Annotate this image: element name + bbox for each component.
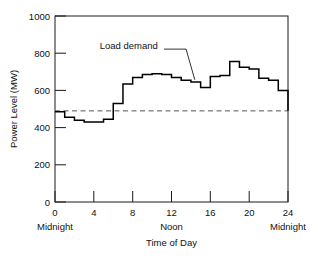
y-tick-label: 0: [45, 197, 50, 208]
x-tick-label: 0: [52, 207, 57, 218]
x-label-midnight-end: Midnight: [270, 221, 306, 232]
x-tick-label: 24: [283, 207, 294, 218]
y-tick-label: 400: [34, 122, 50, 133]
y-axis-title: Power Level (MW): [8, 70, 19, 148]
x-axis-tick-labels: 0 4 8 12 16 20 24: [52, 207, 293, 218]
y-axis-tick-labels: 1000 800 600 400 200 0: [29, 11, 50, 208]
y-tick-label: 600: [34, 85, 50, 96]
x-tick-label: 4: [91, 207, 96, 218]
y-tick-label: 800: [34, 48, 50, 59]
x-tick-label: 20: [244, 207, 255, 218]
chart-figure: 1000 800 600 400 200 0 Power Level (MW) …: [0, 0, 320, 260]
x-label-midnight-start: Midnight: [37, 221, 73, 232]
load-demand-chart: 1000 800 600 400 200 0 Power Level (MW) …: [0, 0, 320, 260]
x-axis-title: Time of Day: [146, 237, 197, 248]
x-axis-secondary-labels: Midnight Noon Midnight: [37, 221, 306, 232]
plot-background: [55, 16, 288, 202]
x-tick-label: 8: [130, 207, 135, 218]
x-tick-label: 16: [205, 207, 216, 218]
x-label-noon: Noon: [160, 221, 183, 232]
load-demand-annotation-label: Load demand: [100, 40, 158, 51]
x-tick-label: 12: [166, 207, 177, 218]
y-tick-label: 200: [34, 159, 50, 170]
y-tick-label: 1000: [29, 11, 50, 22]
